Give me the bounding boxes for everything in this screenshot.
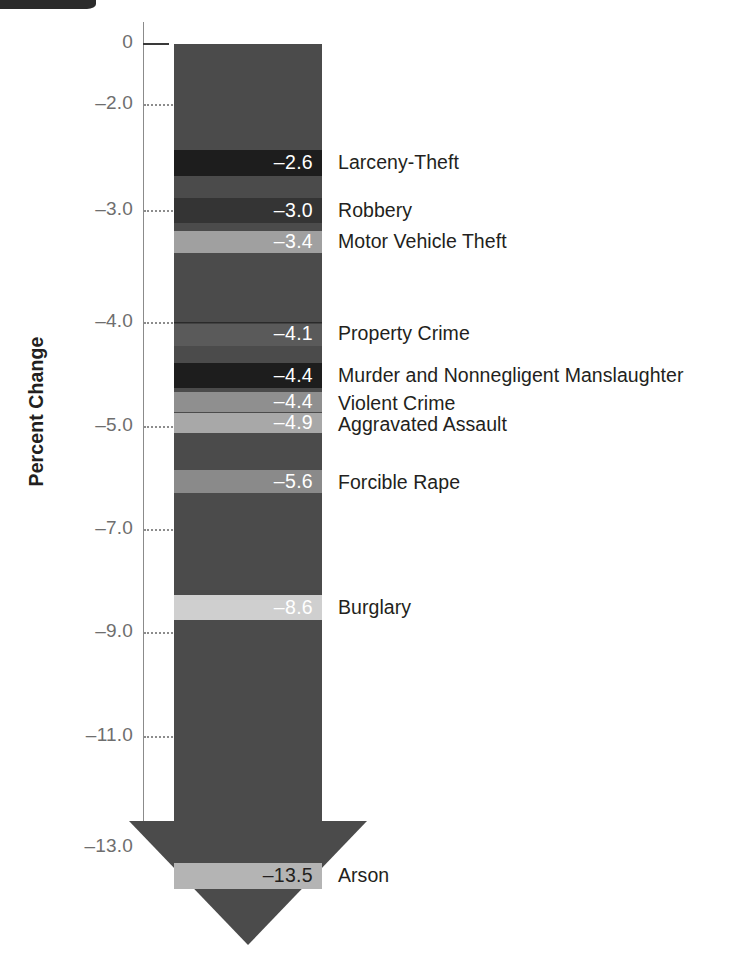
y-gridline-dotted [144, 210, 176, 212]
band-label-violent-crime: Violent Crime [338, 394, 455, 414]
band-value-burglary: –8.6 [274, 598, 322, 618]
band-violent-crime: –4.4 [174, 392, 322, 412]
y-tick-label: –2.0 [95, 92, 133, 114]
band-arson: –13.5 [174, 863, 322, 889]
band-value-property-crime: –4.1 [274, 324, 322, 344]
y-axis-line [143, 22, 144, 822]
percent-change-arrow-chart: Percent Change 0–2.0–3.0–4.0–5.0–7.0–9.0… [0, 0, 745, 966]
band-property-crime: –4.1 [174, 322, 322, 346]
y-tick-mark [143, 43, 169, 45]
band-value-larceny-theft: –2.6 [274, 153, 322, 173]
band-burglary: –8.6 [174, 595, 322, 620]
band-value-murder-nonnegligent-manslaughter: –4.4 [274, 366, 322, 386]
band-label-forcible-rape: Forcible Rape [338, 473, 460, 493]
y-tick-label: 0 [122, 31, 133, 53]
band-value-violent-crime: –4.4 [274, 392, 322, 412]
y-gridline-dotted [144, 736, 176, 738]
band-value-forcible-rape: –5.6 [274, 472, 322, 492]
y-tick-label: –13.0 [84, 835, 133, 857]
y-tick-label: –9.0 [95, 620, 133, 642]
y-gridline-dotted [144, 426, 176, 428]
band-label-larceny-theft: Larceny-Theft [338, 153, 459, 173]
page-corner-artifact [0, 0, 96, 9]
band-value-arson: –13.5 [263, 866, 322, 886]
band-label-arson: Arson [338, 866, 389, 886]
y-gridline-dotted [144, 529, 176, 531]
band-label-burglary: Burglary [338, 598, 411, 618]
band-label-robbery: Robbery [338, 201, 412, 221]
band-label-aggravated-assault: Aggravated Assault [338, 415, 507, 435]
band-label-property-crime: Property Crime [338, 324, 470, 344]
band-value-motor-vehicle-theft: –3.4 [274, 232, 322, 252]
y-tick-label: –4.0 [95, 310, 133, 332]
band-label-murder-nonnegligent-manslaughter: Murder and Nonnegligent Manslaughter [338, 366, 683, 386]
band-larceny-theft: –2.6 [174, 150, 322, 176]
y-tick-label: –7.0 [95, 517, 133, 539]
band-murder-nonnegligent-manslaughter: –4.4 [174, 363, 322, 388]
y-tick-label: –5.0 [95, 414, 133, 436]
y-gridline-dotted [144, 104, 176, 106]
band-value-aggravated-assault: –4.9 [274, 413, 322, 433]
band-forcible-rape: –5.6 [174, 470, 322, 493]
y-tick-label: –3.0 [95, 198, 133, 220]
y-tick-label: –11.0 [86, 724, 133, 746]
y-axis-title: Percent Change [25, 312, 48, 512]
band-label-motor-vehicle-theft: Motor Vehicle Theft [338, 232, 507, 252]
y-gridline-dotted [144, 322, 176, 324]
band-robbery: –3.0 [174, 198, 322, 223]
band-motor-vehicle-theft: –3.4 [174, 231, 322, 253]
y-gridline-dotted [144, 632, 176, 634]
band-aggravated-assault: –4.9 [174, 413, 322, 433]
band-value-robbery: –3.0 [274, 201, 322, 221]
